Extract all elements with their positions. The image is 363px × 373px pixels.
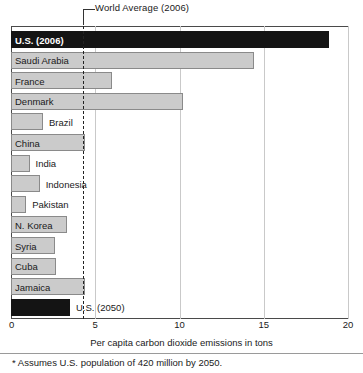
bar-syria <box>11 237 55 254</box>
bar-row: Brazil <box>11 113 351 130</box>
bar-france <box>11 72 112 89</box>
bar-india <box>11 155 30 172</box>
bar-u-s-2006 <box>11 31 329 48</box>
x-tick-20: 20 <box>343 319 354 330</box>
bar-row: France <box>11 72 351 89</box>
world-average-line <box>83 26 84 319</box>
bar-n-korea <box>11 216 67 233</box>
annotation-leader-line <box>83 9 95 25</box>
bar-row: N. Korea <box>11 216 351 233</box>
footnote-divider <box>0 353 363 354</box>
bar-cuba <box>11 258 56 275</box>
bar-u-s-2050 <box>11 299 70 316</box>
x-tick-5: 5 <box>93 319 98 330</box>
bar-row: U.S. (2006) <box>11 31 351 48</box>
bar-row: Cuba <box>11 258 351 275</box>
bar-row: Syria <box>11 237 351 254</box>
bar-row: Pakistan <box>11 196 351 213</box>
bar-row: U.S. (2050) <box>11 299 351 316</box>
x-tick-0: 0 <box>9 319 14 330</box>
x-axis-label: Per capita carbon dioxide emissions in t… <box>0 337 363 348</box>
world-average-annotation: World Average (2006) <box>0 0 363 26</box>
bar-brazil <box>11 113 43 130</box>
bar-row: Jamaica <box>11 278 351 295</box>
bar-denmark <box>11 93 183 110</box>
bar-china <box>11 134 85 151</box>
bar-indonesia <box>11 175 40 192</box>
bar-label: India <box>36 158 57 169</box>
chart-figure: World Average (2006) U.S. (2006)Saudi Ar… <box>0 0 363 373</box>
footnote: * Assumes U.S. population of 420 million… <box>12 357 222 368</box>
bar-row: China <box>11 134 351 151</box>
bar-pakistan <box>11 196 26 213</box>
x-tick-10: 10 <box>174 319 185 330</box>
bar-label: Pakistan <box>32 199 68 210</box>
bar-saudi-arabia <box>11 52 254 69</box>
bar-rows: U.S. (2006)Saudi ArabiaFranceDenmarkBraz… <box>11 26 363 319</box>
x-axis-ticks: 05101520 <box>0 319 363 335</box>
bar-row: Denmark <box>11 93 351 110</box>
world-average-label: World Average (2006) <box>95 2 189 13</box>
bar-jamaica <box>11 278 85 295</box>
bar-row: Saudi Arabia <box>11 52 351 69</box>
x-tick-15: 15 <box>258 319 269 330</box>
bar-row: India <box>11 155 351 172</box>
plot-area: U.S. (2006)Saudi ArabiaFranceDenmarkBraz… <box>0 26 363 319</box>
bar-row: Indonesia <box>11 175 351 192</box>
bar-label: Indonesia <box>46 178 87 189</box>
bar-label: Brazil <box>49 116 73 127</box>
